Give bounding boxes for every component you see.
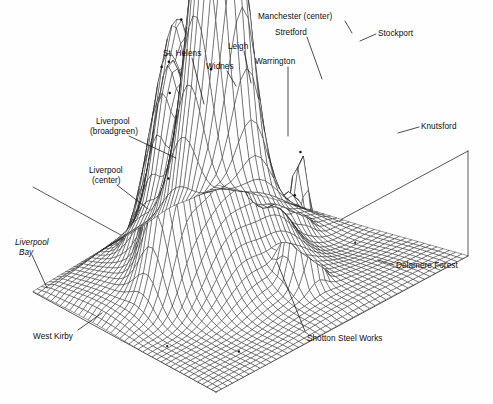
label-liverpool-center-1: Liverpool (89, 166, 123, 176)
label-leigh: Leigh (228, 42, 248, 52)
leader-stockport (360, 34, 376, 41)
site-marker (299, 151, 302, 154)
surface-plot-figure: Manchester (center)StretfordStockportSt.… (0, 0, 493, 404)
label-liverpool-bay-2: Bay (19, 248, 33, 258)
site-marker (160, 66, 163, 69)
leader-stretford (307, 37, 322, 79)
site-marker (168, 92, 171, 95)
site-marker (167, 177, 170, 180)
label-west-kirby: West Kirby (33, 332, 73, 342)
label-liverpool-broadgreen-2: (broadgreen) (90, 127, 138, 137)
site-marker (168, 61, 171, 64)
label-stretford: Stretford (275, 28, 307, 38)
label-widnes: Widnes (206, 62, 234, 72)
leader-manchester-center (345, 21, 352, 33)
wireframe-mesh (33, 0, 468, 392)
leader-knutsford (398, 127, 419, 133)
site-marker (294, 194, 297, 197)
label-st-helens: St. Helens (163, 49, 201, 59)
site-marker (166, 345, 168, 347)
label-liverpool-broadgreen-1: Liverpool (96, 117, 130, 127)
site-marker (354, 242, 356, 244)
label-shotton-steel: Shotton Steel Works (307, 334, 382, 344)
surface-plot-canvas (0, 0, 493, 404)
label-knutsford: Knutsford (421, 122, 457, 132)
site-marker (238, 350, 240, 352)
label-liverpool-center-2: (center) (92, 176, 121, 186)
site-marker (180, 18, 183, 21)
label-delamere-forest: Delamere Forest (396, 261, 458, 271)
label-liverpool-bay-1: Liverpool (15, 238, 49, 248)
label-stockport: Stockport (378, 29, 413, 39)
label-manchester-center: Manchester (center) (258, 12, 332, 22)
label-warrington: Warrington (255, 57, 295, 67)
leader-liverpool-bay (32, 255, 47, 288)
